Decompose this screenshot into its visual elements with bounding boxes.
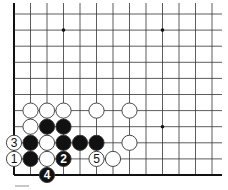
- white-stone-icon: [105, 151, 120, 166]
- white-stone-icon: [39, 103, 54, 118]
- move-number-label: 5: [93, 152, 100, 166]
- black-stone: [72, 135, 87, 150]
- white-stone-move-5: 5: [89, 151, 104, 166]
- black-stone-move-2: 2: [56, 151, 71, 166]
- black-stone-icon: [56, 135, 71, 150]
- white-stone: [122, 103, 137, 118]
- black-stone-icon: [23, 135, 38, 150]
- white-stone-icon: [56, 103, 71, 118]
- star-point: [62, 28, 66, 32]
- white-stone-icon: [23, 119, 38, 134]
- white-stone: [23, 119, 38, 134]
- black-stone-icon: [89, 135, 104, 150]
- white-stone: [39, 135, 54, 150]
- move-number-label: 4: [44, 168, 51, 182]
- caption-fragment: [15, 185, 29, 187]
- black-stone: [23, 151, 38, 166]
- white-stone: [56, 103, 71, 118]
- black-stone-icon: [56, 119, 71, 134]
- black-stone: [39, 119, 54, 134]
- white-stone-icon: [39, 151, 54, 166]
- white-stone-move-3: 3: [6, 135, 21, 150]
- black-stone: [56, 135, 71, 150]
- star-point: [161, 28, 165, 32]
- white-stone: [23, 103, 38, 118]
- black-stone: [56, 119, 71, 134]
- go-board-diagram: 31254: [0, 0, 228, 190]
- white-stone-icon: [122, 103, 137, 118]
- white-stone: [39, 151, 54, 166]
- white-stone: [122, 135, 137, 150]
- white-stone-move-1: 1: [6, 151, 21, 166]
- white-stone: [105, 151, 120, 166]
- black-stone-icon: [72, 135, 87, 150]
- white-stone-icon: [122, 135, 137, 150]
- black-stone: [23, 135, 38, 150]
- move-number-label: 1: [11, 152, 18, 166]
- white-stone-icon: [23, 103, 38, 118]
- black-stone-move-4: 4: [39, 167, 54, 182]
- white-stone-icon: [89, 103, 104, 118]
- white-stone-icon: [39, 135, 54, 150]
- white-stone: [39, 103, 54, 118]
- star-point: [161, 125, 165, 129]
- black-stone-icon: [23, 151, 38, 166]
- black-stone: [89, 135, 104, 150]
- white-stone: [89, 103, 104, 118]
- move-number-label: 3: [11, 136, 18, 150]
- black-stone-icon: [39, 119, 54, 134]
- move-number-label: 2: [60, 152, 67, 166]
